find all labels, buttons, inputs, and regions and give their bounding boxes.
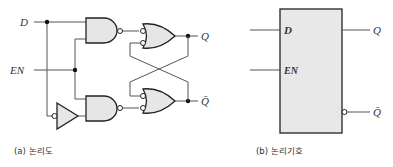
logic-symbol: D EN Q Q̄ (b) 논리기호 <box>250 9 381 156</box>
d-latch-figure: D EN Q Q̄ <box>0 0 393 167</box>
or-gate-bottom <box>143 89 175 114</box>
symbol-label-en: EN <box>283 65 299 76</box>
wire-d-to-inverter <box>47 22 52 116</box>
inversion-bubble <box>118 29 123 34</box>
inversion-bubble <box>118 106 123 111</box>
and-gate-top <box>86 18 117 43</box>
junction-d <box>45 20 49 24</box>
inversion-bubble <box>141 41 146 46</box>
caption-logic-diagram: (a) 논리도 <box>14 146 53 156</box>
output-label-q: Q <box>201 30 209 42</box>
inversion-bubble <box>342 110 347 115</box>
symbol-output-q: Q <box>373 24 381 36</box>
symbol-output-q-bar: Q̄ <box>373 106 381 118</box>
not-gate <box>57 103 78 129</box>
and-gate-bottom <box>86 96 117 121</box>
input-label-d: D <box>19 16 28 28</box>
inversion-bubble <box>141 106 146 111</box>
input-label-en: EN <box>9 64 25 76</box>
logic-diagram: D EN Q Q̄ <box>9 16 209 156</box>
junction-en <box>73 68 77 72</box>
or-gate-top <box>143 24 175 49</box>
inversion-bubble <box>141 94 146 99</box>
output-label-q-bar: Q̄ <box>201 95 209 107</box>
inversion-bubble <box>52 114 57 119</box>
inversion-bubble <box>141 29 146 34</box>
symbol-label-d: D <box>283 24 292 36</box>
caption-logic-symbol: (b) 논리기호 <box>256 146 303 156</box>
